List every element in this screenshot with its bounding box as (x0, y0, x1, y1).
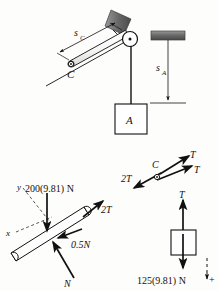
fbd-pulley-group: 2T T T C (121, 149, 201, 188)
fbd-pulley-tension-left-label: 2T (121, 173, 133, 184)
pulley-top (123, 32, 138, 47)
pulley-c-system (68, 61, 73, 66)
fbd-pulley-tension-upper-arrow (160, 156, 189, 174)
fbd-block-sign-label: + (209, 274, 215, 285)
fbd-block-group: T + 125(9.81) N (137, 189, 215, 287)
incline-ground-line (46, 38, 132, 86)
system-diagram-group: A s C s A C (46, 10, 186, 134)
angled-support-hatch (105, 10, 131, 35)
fbd-bar-friction-label: 0.5N (71, 239, 92, 250)
pulley-c-label-system: C (67, 68, 75, 80)
fbd-bar-tension-label: 2T (101, 204, 113, 215)
svg-text:s: s (156, 62, 160, 73)
svg-text:A: A (161, 69, 167, 77)
fbd-pulley-c-label: C (152, 159, 159, 170)
fbd-bar-group: x y 200(9.81) N 2T 0.5N N (5, 182, 113, 289)
dimension-sa-label: s A (156, 62, 167, 77)
svg-text:C: C (80, 34, 85, 42)
fbd-pulley-tension-upper-label: T (190, 149, 197, 160)
fbd-pulley-node (154, 174, 159, 179)
svg-text:s: s (74, 27, 78, 38)
figure-canvas: A s C s A C (0, 0, 218, 291)
fbd-bar-y-label: y (16, 182, 21, 192)
fbd-pulley-tension-lower-label: T (194, 164, 201, 175)
fbd-bar-x-label: x (5, 228, 10, 238)
figure-svg: A s C s A C (0, 0, 218, 291)
fbd-bar-normal-label: N (63, 278, 72, 289)
ceiling-support-hatch (151, 31, 185, 40)
fbd-block-tension-label: T (179, 189, 186, 200)
fbd-bar-weight-label: 200(9.81) N (25, 183, 74, 195)
dimension-sc-label: s C (74, 27, 85, 42)
fbd-block-weight-label: 125(9.81) N (137, 275, 186, 287)
block-a-label: A (125, 114, 133, 126)
fbd-bar-body (11, 206, 91, 261)
